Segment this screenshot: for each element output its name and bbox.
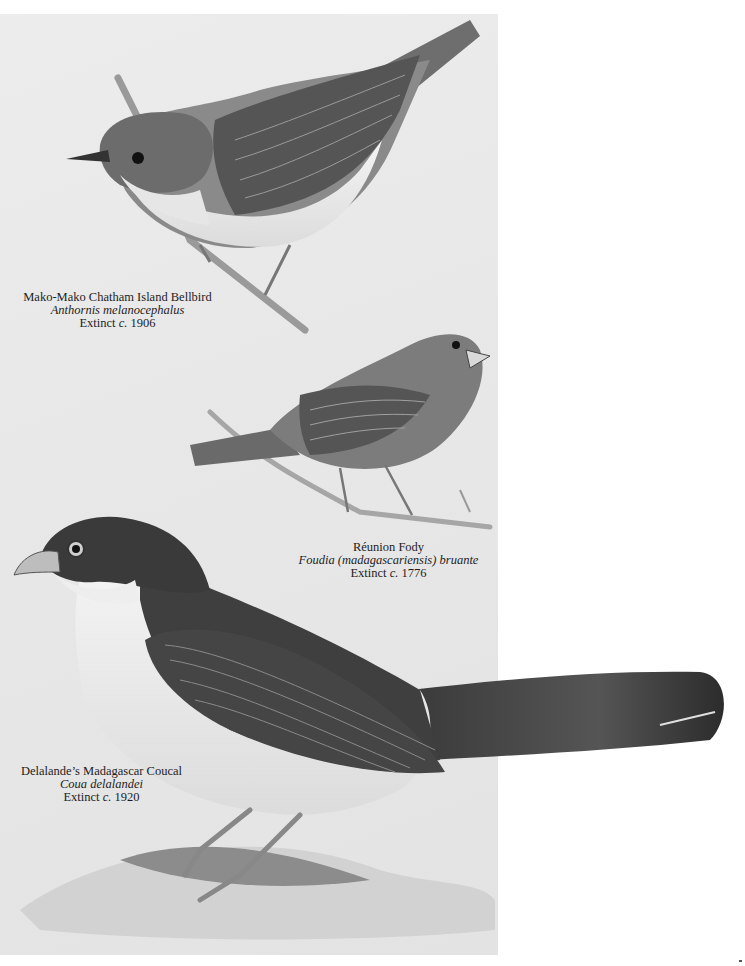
extinct-label: Extinct xyxy=(63,790,102,804)
coucal-beak xyxy=(14,551,60,575)
fody-eye xyxy=(452,341,460,349)
bellbird-illustration xyxy=(66,20,480,330)
bird-extinction-date: Extinct c. 1906 xyxy=(10,317,225,330)
bellbird-head xyxy=(100,112,213,193)
extinct-year: 1920 xyxy=(111,790,139,804)
bird-caption-fody: Réunion Fody Foudia (madagascariensis) b… xyxy=(276,541,501,580)
extinct-label: Extinct xyxy=(79,316,118,330)
fody-illustration xyxy=(190,334,490,527)
bellbird-beak xyxy=(66,150,110,162)
extinct-year: 1906 xyxy=(127,316,155,330)
bird-caption-coucal: Delalande’s Madagascar Coucal Coua delal… xyxy=(4,765,199,804)
bird-extinction-date: Extinct c. 1776 xyxy=(276,567,501,580)
extinct-label: Extinct xyxy=(350,566,389,580)
bird-caption-bellbird: Mako-Mako Chatham Island Bellbird Anthor… xyxy=(10,291,225,330)
bird-extinction-date: Extinct c. 1920 xyxy=(4,791,199,804)
extinct-year: 1776 xyxy=(398,566,426,580)
page-mark xyxy=(739,960,742,962)
coucal-tail xyxy=(410,672,724,760)
coucal-illustration xyxy=(14,517,724,940)
bird-illustrations xyxy=(0,0,745,966)
bellbird-eye xyxy=(132,152,144,164)
